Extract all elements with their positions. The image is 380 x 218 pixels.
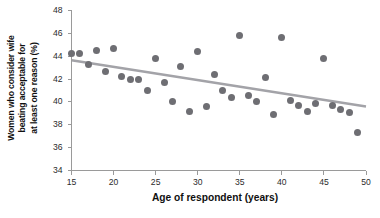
data-point: [118, 73, 125, 80]
y-axis-tick-label: 34: [41, 165, 63, 175]
y-axis-tick-mark: [68, 101, 72, 102]
x-axis-tick-mark: [197, 171, 198, 175]
data-point: [203, 103, 210, 110]
data-point: [228, 94, 235, 101]
x-axis-tick-label: 50: [353, 177, 379, 187]
y-axis-tick-label: 36: [41, 142, 63, 152]
y-axis-tick-label: 48: [41, 5, 63, 15]
data-point: [68, 50, 75, 57]
y-axis-tick-mark: [68, 33, 72, 34]
data-point: [169, 98, 176, 105]
data-point: [135, 76, 142, 83]
data-point: [76, 50, 83, 57]
x-axis-tick-label: 25: [143, 177, 169, 187]
data-point: [287, 97, 294, 104]
data-point: [320, 55, 327, 62]
y-axis-title-line-1: Women who consider wife: [6, 35, 17, 140]
data-point: [93, 47, 100, 54]
data-point: [110, 45, 117, 52]
data-point: [270, 111, 277, 118]
y-axis-title-line-2: beating acceptable for: [17, 35, 28, 140]
data-point: [354, 129, 361, 136]
data-point: [127, 76, 134, 83]
data-point: [85, 61, 92, 68]
data-point: [236, 32, 243, 39]
x-axis-tick-label: 15: [59, 177, 85, 187]
data-point: [346, 109, 353, 116]
x-axis-tick-label: 35: [227, 177, 253, 187]
x-axis-tick-mark: [281, 171, 282, 175]
data-point: [262, 74, 269, 81]
y-axis-tick-mark: [68, 79, 72, 80]
data-point: [295, 102, 302, 109]
x-axis-tick-label: 45: [311, 177, 337, 187]
y-axis-tick-label: 42: [41, 74, 63, 84]
y-axis-tick-mark: [68, 147, 72, 148]
x-axis-tick-mark: [71, 171, 72, 175]
x-axis-tick-mark: [113, 171, 114, 175]
y-axis-tick-label: 40: [41, 96, 63, 106]
x-axis-tick-label: 40: [269, 177, 295, 187]
x-axis-line: [72, 170, 367, 171]
y-axis-tick-mark: [68, 124, 72, 125]
trendline-segment: [72, 60, 367, 106]
data-point: [219, 87, 226, 94]
x-axis-tick-mark: [239, 171, 240, 175]
data-point: [194, 48, 201, 55]
x-axis-tick-label: 20: [101, 177, 127, 187]
data-point: [211, 71, 218, 78]
x-axis-tick-mark: [366, 171, 367, 175]
data-point: [152, 55, 159, 62]
data-point: [161, 79, 168, 86]
data-point: [278, 34, 285, 41]
data-point: [177, 63, 184, 70]
data-point: [329, 102, 336, 109]
x-axis-tick-mark: [323, 171, 324, 175]
y-axis-tick-mark: [68, 10, 72, 11]
data-point: [144, 87, 151, 94]
data-point: [102, 68, 109, 75]
data-point: [304, 108, 311, 115]
y-axis-tick-label: 44: [41, 51, 63, 61]
y-axis-tick-label: 46: [41, 28, 63, 38]
x-axis-title: Age of respondent (years): [60, 192, 370, 203]
data-point: [337, 106, 344, 113]
data-point: [186, 108, 193, 115]
data-point: [312, 100, 319, 107]
data-point: [245, 92, 252, 99]
y-axis-title: Women who consider wife beating acceptab…: [0, 0, 46, 176]
y-axis-title-line-3: at least one reason (%): [29, 35, 40, 140]
scatter-chart: Women who consider wife beating acceptab…: [0, 0, 380, 218]
x-axis-tick-mark: [155, 171, 156, 175]
y-axis-tick-label: 38: [41, 119, 63, 129]
x-axis-tick-label: 30: [185, 177, 211, 187]
data-point: [253, 98, 260, 105]
